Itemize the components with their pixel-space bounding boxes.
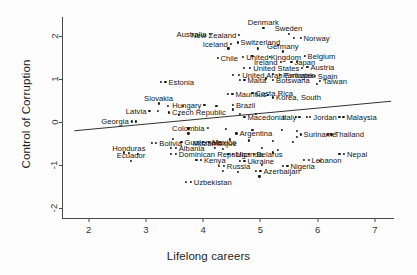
scatter-plot-figure: Control of Corruption AustraliaNew Zeala… [0,0,417,275]
x-axis-tick-1: 3 [131,218,161,235]
y-axis-tick-3: -1 [29,160,63,171]
x-axis-tick-2: 4 [188,218,218,235]
x-axis-tick-5: 7 [360,218,390,235]
plot-area: AustraliaNew ZealandDenmarkSwedenNorwayI… [62,17,394,219]
x-axis-tick-4: 6 [303,218,333,235]
x-axis-tick-3: 5 [245,218,275,235]
x-axis-tick-0: 2 [74,218,104,235]
y-axis-tick-0: 2 [29,31,63,42]
x-axis-title: Lifelong careers [0,250,417,262]
y-axis-title: Control of Corruption [20,24,32,204]
regression-line [63,17,394,218]
y-axis-tick-2: 0 [29,117,63,128]
y-axis-tick-1: 1 [29,74,63,85]
y-axis-tick-4: -2 [29,203,63,214]
